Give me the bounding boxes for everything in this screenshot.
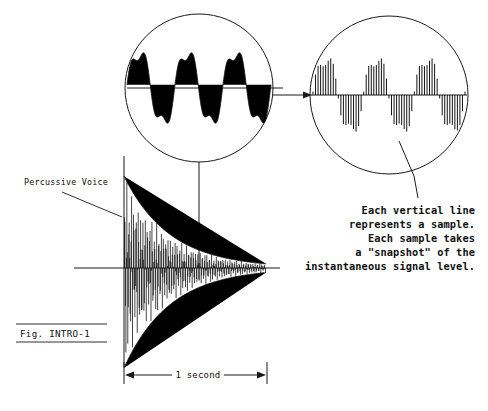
figure-intro-1: Percussive Voice Fig. INTRO-1 1 second E… (0, 0, 488, 411)
figure-caption: Fig. INTRO-1 (20, 328, 90, 339)
dimension-arrow-right-icon (257, 372, 266, 379)
callout-line-4: a "snapshot" of the (355, 246, 475, 258)
percussive-voice-leader-line (62, 192, 122, 217)
callout-line-3: Each sample takes (368, 232, 475, 244)
analog-detail-circle-group (125, 14, 283, 162)
callout-line-1: Each vertical line (362, 204, 475, 216)
duration-dimension-group: 1 second (124, 362, 267, 384)
callout-text-block: Each vertical line represents a sample. … (305, 204, 475, 272)
flow-arrow-icon (272, 91, 312, 98)
main-waveform-group (74, 156, 280, 368)
flow-arrow-head (303, 91, 312, 98)
percussive-voice-label: Percussive Voice (24, 177, 108, 187)
percussive-voice-annotation: Percussive Voice (24, 177, 122, 217)
callout-line-2: represents a sample. (349, 218, 475, 230)
figure-canvas: Percussive Voice Fig. INTRO-1 1 second E… (0, 0, 488, 411)
figure-caption-group: Fig. INTRO-1 (16, 324, 107, 342)
sampled-detail-circle-group (310, 16, 468, 174)
callout-line-5: instantaneous signal level. (305, 260, 475, 272)
sample-line-group (313, 58, 465, 131)
dimension-arrow-left-icon (125, 372, 134, 379)
duration-label: 1 second (176, 370, 221, 380)
envelope-lower-curve (124, 273, 266, 369)
